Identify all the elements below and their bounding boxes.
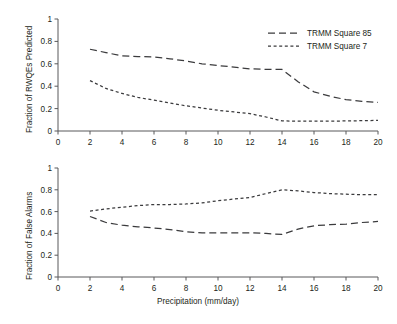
series-line-square-7 [90, 190, 378, 211]
x-tick-label: 6 [152, 284, 157, 293]
y-tick-label: 0.8 [41, 37, 53, 46]
y-tick-label: 0 [47, 273, 52, 282]
x-tick-label: 16 [309, 138, 319, 147]
y-tick-label: 0.6 [41, 208, 53, 217]
series-group-bottom [90, 190, 378, 235]
legend: TRMM Square 85TRMM Square 7 [268, 29, 372, 51]
x-tick-label: 0 [56, 138, 61, 147]
y-axis-title-bottom: Fraction of False Alarms [25, 192, 34, 280]
legend-label: TRMM Square 85 [307, 29, 372, 38]
x-tick-label: 4 [120, 138, 125, 147]
x-tick-label: 12 [245, 138, 255, 147]
x-tick-label: 14 [277, 284, 287, 293]
figure-container: Fraction of RWQEs Predicted 00.20.40.60.… [0, 0, 397, 324]
x-tick-label: 10 [213, 138, 223, 147]
x-tick-label: 20 [373, 138, 383, 147]
x-tick-label: 10 [213, 284, 223, 293]
chart-panel-bottom: Fraction of False Alarms 00.20.40.60.810… [0, 150, 397, 324]
x-tick-label: 18 [341, 138, 351, 147]
x-tick-label: 8 [184, 284, 189, 293]
x-tick-label: 2 [88, 138, 93, 147]
y-tick-label: 0.6 [41, 60, 53, 69]
chart-svg-bottom: Fraction of False Alarms 00.20.40.60.810… [0, 150, 397, 324]
series-line-square-85 [90, 217, 378, 235]
x-tick-label: 20 [373, 284, 383, 293]
x-tick-label: 16 [309, 284, 319, 293]
y-tick-label: 0.2 [41, 251, 53, 260]
x-tick-label: 4 [120, 284, 125, 293]
y-tick-label: 1 [47, 164, 52, 173]
legend-label: TRMM Square 7 [307, 42, 368, 51]
chart-svg-top: Fraction of RWQEs Predicted 00.20.40.60.… [0, 0, 397, 160]
x-tick-label: 12 [245, 284, 255, 293]
y-tick-label: 0.4 [41, 229, 53, 238]
y-tick-label: 0.2 [41, 105, 53, 114]
series-line-square-7 [90, 81, 378, 122]
series-group-top [90, 49, 378, 121]
y-axis-title-top-text: Fraction of RWQEs Predicted [25, 25, 34, 133]
tick-labels-bottom: 00.20.40.60.8102468101214161820 [41, 164, 383, 293]
x-tick-label: 8 [184, 138, 189, 147]
x-axis-title: Precipitation (mm/day) [157, 297, 239, 306]
x-tick-label: 0 [56, 284, 61, 293]
y-tick-label: 1 [47, 15, 52, 24]
y-axis-title-bottom-text: Fraction of False Alarms [25, 192, 34, 280]
series-line-square-85 [90, 49, 378, 102]
y-axis-title-top: Fraction of RWQEs Predicted [25, 25, 34, 133]
x-tick-label: 14 [277, 138, 287, 147]
x-tick-label: 18 [341, 284, 351, 293]
x-tick-label: 2 [88, 284, 93, 293]
x-tick-label: 6 [152, 138, 157, 147]
chart-panel-top: Fraction of RWQEs Predicted 00.20.40.60.… [0, 0, 397, 160]
y-tick-label: 0.8 [41, 186, 53, 195]
y-tick-label: 0.4 [41, 82, 53, 91]
y-tick-label: 0 [47, 127, 52, 136]
